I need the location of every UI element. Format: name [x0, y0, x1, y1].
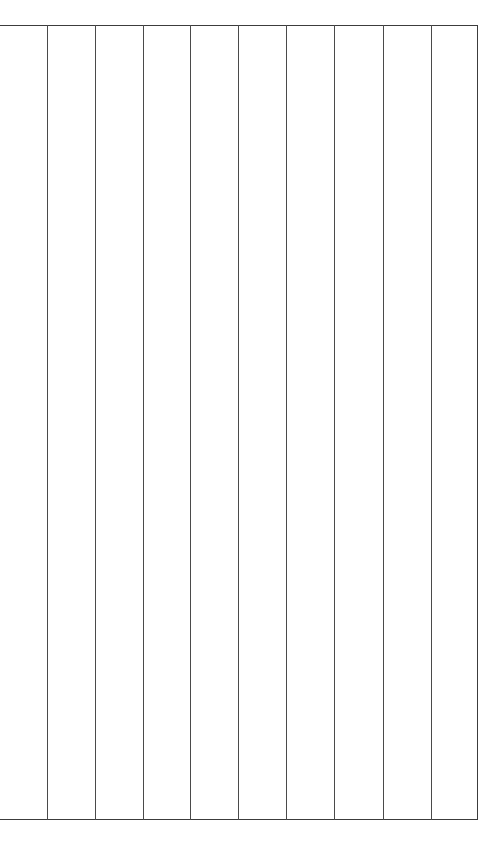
table-column-3	[96, 26, 142, 819]
table-cell	[96, 26, 142, 29]
table-column-9	[384, 26, 430, 819]
table-column-7	[287, 26, 333, 819]
table-column-8	[335, 26, 382, 819]
table-cell	[191, 26, 237, 29]
table-column-1	[0, 26, 46, 819]
table-cell	[144, 26, 189, 29]
table-column-2	[48, 26, 94, 819]
table-cell	[432, 26, 476, 29]
table-cell	[0, 26, 46, 29]
table-right-border	[477, 25, 478, 820]
table-cell	[335, 26, 382, 29]
table-grid	[0, 25, 478, 821]
table-column-4	[144, 26, 189, 819]
table-column-5	[191, 26, 237, 819]
table-column-6	[239, 26, 285, 819]
document-page	[0, 0, 501, 846]
table-cell	[48, 26, 94, 29]
table-bottom-border	[0, 819, 478, 820]
table-column-10	[432, 26, 476, 819]
table-cell	[384, 26, 430, 29]
table-cell	[239, 26, 285, 29]
table-cell	[287, 26, 333, 29]
